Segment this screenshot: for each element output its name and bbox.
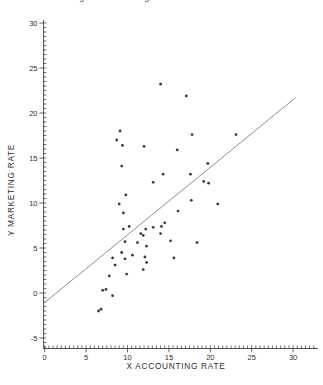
y-axis-label: Y MARKETING RATE <box>6 144 16 236</box>
data-point <box>131 254 134 257</box>
data-point <box>142 268 145 271</box>
data-point <box>202 180 205 183</box>
data-point <box>163 221 166 224</box>
x-axis-label: X ACCOUNTING RATE <box>127 361 226 371</box>
data-point <box>139 232 142 235</box>
data-point <box>172 257 175 260</box>
data-point <box>136 241 139 244</box>
data-point <box>145 245 148 248</box>
y-tick-label: 25 <box>29 64 37 73</box>
regression-line <box>45 98 296 303</box>
data-point <box>111 294 114 297</box>
data-point <box>100 308 103 311</box>
data-point <box>216 203 219 206</box>
data-point <box>128 225 131 228</box>
data-point <box>111 257 114 260</box>
data-point <box>122 212 125 215</box>
data-point <box>142 234 145 237</box>
data-point <box>143 145 146 148</box>
data-point <box>189 173 192 176</box>
data-point <box>121 144 124 147</box>
data-point <box>235 133 238 136</box>
data-point <box>152 226 155 229</box>
x-tick-label: 0 <box>43 353 47 362</box>
data-point <box>114 264 117 267</box>
y-tick-label: 20 <box>29 109 37 118</box>
data-point <box>159 83 162 86</box>
y-tick-label: 10 <box>29 199 37 208</box>
data-point <box>152 181 155 184</box>
data-point <box>125 273 128 276</box>
x-tick-label: 30 <box>289 353 297 362</box>
scatter-plot-figure: accounting and marketing rates 051015202… <box>0 0 323 385</box>
data-point <box>144 228 147 231</box>
data-point <box>196 241 199 244</box>
data-point <box>101 289 104 292</box>
data-point <box>143 256 146 259</box>
x-tick-label: 25 <box>248 353 256 362</box>
y-tick-label: 30 <box>29 19 37 28</box>
data-point <box>190 199 193 202</box>
data-point <box>105 288 108 291</box>
data-point <box>160 225 163 228</box>
scatter-chart: 051015202530-5051015202530X ACCOUNTING R… <box>0 0 323 385</box>
data-point <box>124 240 127 243</box>
data-point <box>185 95 188 98</box>
data-point <box>191 133 194 136</box>
data-point <box>162 173 165 176</box>
y-tick-label: 0 <box>33 289 37 298</box>
data-point <box>120 251 123 254</box>
data-point <box>159 232 162 235</box>
data-point <box>124 194 127 197</box>
y-tick-label: 15 <box>29 154 37 163</box>
data-point <box>97 310 100 313</box>
data-point <box>119 130 122 133</box>
data-point <box>120 165 123 168</box>
data-point <box>118 203 121 206</box>
data-point <box>115 139 118 142</box>
data-point <box>124 257 127 260</box>
data-point <box>177 210 180 213</box>
data-point <box>207 182 210 185</box>
data-point <box>206 162 209 165</box>
data-point <box>122 228 125 231</box>
y-tick-label: 5 <box>33 244 37 253</box>
data-point <box>169 239 172 242</box>
data-point <box>108 275 111 278</box>
data-point <box>145 261 148 264</box>
x-tick-label: 5 <box>84 353 88 362</box>
data-point <box>176 149 179 152</box>
y-tick-label: -5 <box>31 334 38 343</box>
